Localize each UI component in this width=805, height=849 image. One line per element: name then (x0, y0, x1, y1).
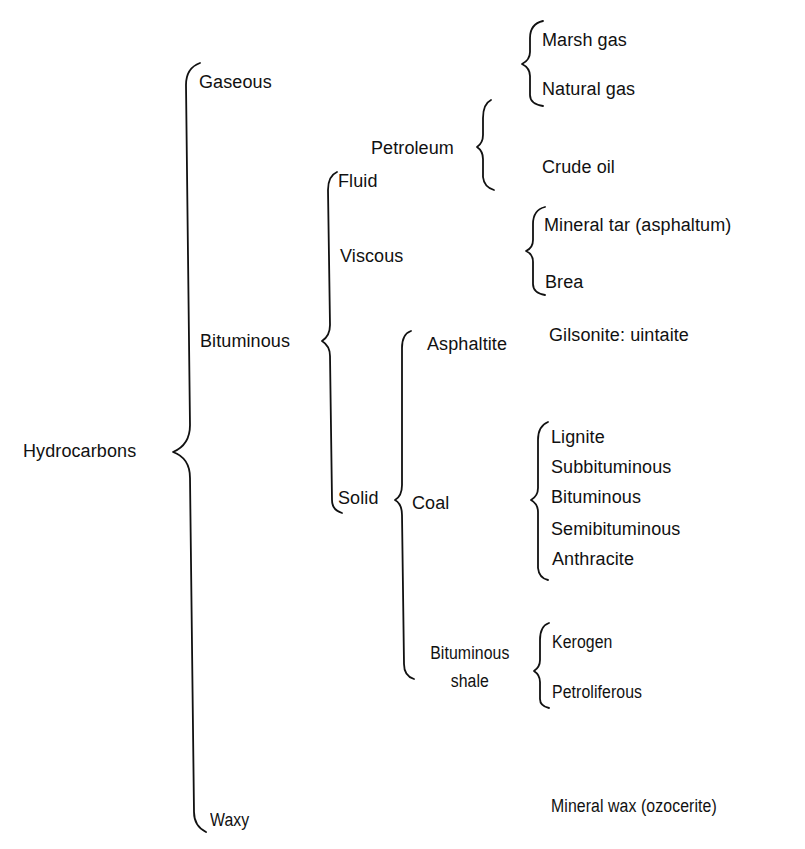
node-natural-gas: Natural gas (542, 79, 635, 99)
node-solid: Solid (338, 488, 379, 508)
node-subbituminous: Subbituminous (551, 457, 671, 477)
node-viscous: Viscous (340, 246, 403, 266)
node-hydrocarbons: Hydrocarbons (23, 441, 136, 461)
node-kerogen: Kerogen (552, 632, 613, 652)
brace-petroleum (477, 100, 494, 190)
node-bituminous-shale: Bituminous shale (410, 643, 530, 691)
node-crude-oil: Crude oil (542, 157, 615, 177)
node-petroleum: Petroleum (371, 138, 454, 158)
node-fluid: Fluid (338, 171, 378, 191)
brace-bituminous (322, 172, 342, 513)
node-coal-bituminous: Bituminous (551, 487, 641, 507)
node-asphaltite: Asphaltite (427, 334, 507, 354)
node-bituminous-shale-line1: Bituminous (410, 643, 530, 663)
node-gilsonite: Gilsonite: uintaite (549, 325, 689, 345)
hydrocarbon-classification-diagram: Hydrocarbons Gaseous Bituminous Waxy Mar… (0, 0, 805, 849)
node-waxy: Waxy (210, 810, 249, 830)
bracket-lines (0, 0, 805, 849)
node-coal: Coal (412, 493, 449, 513)
node-brea: Brea (545, 272, 583, 292)
node-mineral-tar: Mineral tar (asphaltum) (544, 215, 731, 235)
brace-coal (531, 422, 548, 580)
node-petroliferous: Petroliferous (552, 682, 642, 702)
node-lignite: Lignite (551, 427, 605, 447)
brace-gaseous (522, 21, 543, 106)
brace-shale (534, 623, 549, 708)
node-mineral-wax: Mineral wax (ozocerite) (551, 796, 717, 816)
node-gaseous: Gaseous (199, 72, 272, 92)
brace-hydrocarbons (173, 63, 206, 832)
node-bituminous-shale-line2: shale (410, 671, 530, 691)
node-anthracite: Anthracite (552, 549, 634, 569)
node-bituminous: Bituminous (200, 331, 290, 351)
node-semibituminous: Semibituminous (551, 519, 680, 539)
node-marsh-gas: Marsh gas (542, 30, 627, 50)
brace-viscous (526, 207, 545, 295)
